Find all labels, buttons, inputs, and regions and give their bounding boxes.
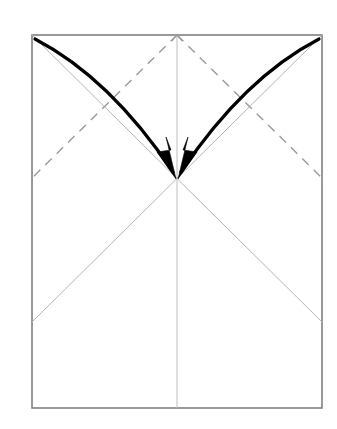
convergence-point — [176, 177, 178, 179]
origami-svg-canvas — [0, 0, 337, 429]
origami-diagram — [0, 0, 337, 429]
